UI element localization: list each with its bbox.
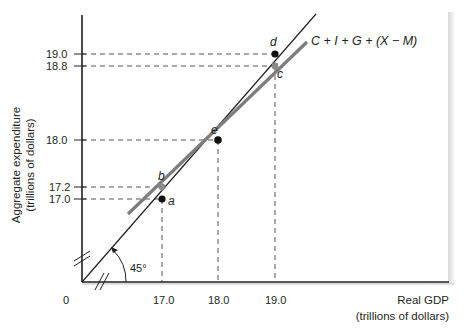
x-tick-19-0: 19.0 (265, 294, 286, 306)
angle-label: 45° (130, 262, 147, 274)
point-a (158, 195, 165, 202)
y-tick-17-0: 17.0 (49, 193, 70, 205)
y-tick-18-0: 18.0 (46, 134, 67, 146)
x-tick-18-0: 18.0 (208, 294, 229, 306)
point-b (159, 184, 166, 191)
origin-label: 0 (63, 294, 69, 306)
point-d (271, 50, 278, 57)
point-e (214, 136, 222, 144)
point-label-d: d (270, 35, 277, 49)
guide-lines (82, 54, 275, 282)
point-label-a: a (168, 194, 175, 208)
y-tick-17-2: 17.2 (49, 181, 70, 193)
x-tick-17-0: 17.0 (153, 294, 174, 306)
y-axis-title-line2: (trillions of dollars) (24, 118, 36, 211)
angle-arc (113, 250, 126, 282)
x-axis-title-line2: (trillions of dollars) (356, 310, 449, 322)
point-label-c: c (277, 67, 283, 81)
y-tick-18-8: 18.8 (46, 60, 67, 72)
x-axis-title-line1: Real GDP (397, 294, 449, 306)
y-tick-marks (74, 54, 86, 199)
point-label-e: e (211, 123, 218, 137)
y-tick-19-0: 19.0 (46, 48, 67, 60)
aggregate-expenditure-chart: 45° a b e d c C + I + G + (X − M) 19.0 1… (0, 0, 469, 331)
y-axis-title-line1: Aggregate expenditure (10, 107, 22, 223)
curve-label-ae: C + I + G + (X − M) (311, 34, 417, 48)
point-label-b: b (158, 169, 165, 183)
